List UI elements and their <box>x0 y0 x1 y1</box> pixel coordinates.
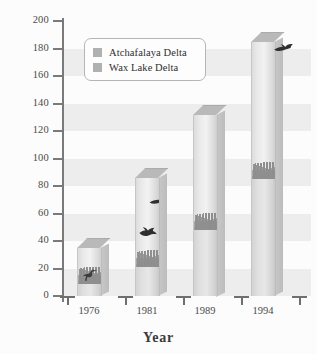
bar-segment-wax-lake <box>194 230 217 296</box>
x-axis-tick <box>176 296 191 298</box>
y-axis-tick <box>53 213 62 215</box>
y-axis-tick-label: 200 <box>9 14 49 25</box>
y-axis-tick-label: 100 <box>9 152 49 163</box>
bar-1976 <box>77 248 100 296</box>
y-axis-tick-label: 120 <box>9 124 49 135</box>
grass-texture <box>252 161 275 179</box>
chart-figure: 020406080100120140160180200 Area (km2) 1… <box>0 0 317 354</box>
bar-segment-wax-lake <box>252 179 275 296</box>
y-axis-tick-label: 40 <box>9 234 49 245</box>
x-axis-tick-label: 1976 <box>66 305 112 316</box>
chart-legend: Atchafalaya Delta Wax Lake Delta <box>84 38 206 81</box>
y-axis-tick <box>53 130 62 132</box>
x-axis-tick-label: 1981 <box>124 305 170 316</box>
bar-front-face <box>251 42 276 296</box>
y-axis-line <box>62 18 64 302</box>
y-axis-tick <box>53 20 62 22</box>
y-axis-tick-label: 80 <box>9 179 49 190</box>
legend-label: Atchafalaya Delta <box>109 47 187 58</box>
y-axis-tick <box>53 185 62 187</box>
x-axis-tick <box>234 296 249 298</box>
x-axis-tick <box>292 296 307 298</box>
bar-1989 <box>193 115 216 297</box>
y-axis-tick-label: 20 <box>9 262 49 273</box>
flying-duck-icon <box>137 225 159 239</box>
legend-item-wax-lake-delta: Wax Lake Delta <box>93 62 197 73</box>
grass-texture <box>194 212 217 230</box>
legend-swatch-icon <box>93 48 102 57</box>
y-axis-tick <box>53 268 62 270</box>
y-axis-tick <box>53 48 62 50</box>
bar-segment-wax-lake <box>136 267 159 296</box>
y-axis-tick-label: 140 <box>9 97 49 108</box>
legend-swatch-icon <box>93 63 102 72</box>
grass-texture <box>136 249 159 267</box>
y-axis-tick <box>53 240 62 242</box>
x-axis-tick-label: 1994 <box>240 305 286 316</box>
y-axis-tick <box>53 158 62 160</box>
y-axis-tick-label: 0 <box>9 289 49 300</box>
y-axis-tick <box>53 103 62 105</box>
x-axis-tick <box>60 296 75 298</box>
x-axis-tick-label: 1989 <box>182 305 228 316</box>
y-axis-tick <box>53 75 62 77</box>
bar-front-face <box>77 248 102 296</box>
bar-front-face <box>135 178 160 296</box>
legend-item-atchafalaya-delta: Atchafalaya Delta <box>93 47 197 58</box>
y-axis-tick-label: 160 <box>9 69 49 80</box>
legend-label: Wax Lake Delta <box>109 62 178 73</box>
bar-1981 <box>135 178 158 296</box>
bar-segment-wax-lake <box>78 284 101 296</box>
bar-front-face <box>193 115 218 297</box>
y-axis-tick-label: 180 <box>9 42 49 53</box>
x-axis-title: Year <box>0 330 317 346</box>
x-axis-tick <box>118 296 133 298</box>
wading-bird-icon <box>80 267 99 282</box>
flying-bird-icon <box>148 196 160 207</box>
flying-bird-icon <box>273 42 295 54</box>
y-axis-tick-label: 60 <box>9 207 49 218</box>
bar-1994 <box>251 42 274 296</box>
